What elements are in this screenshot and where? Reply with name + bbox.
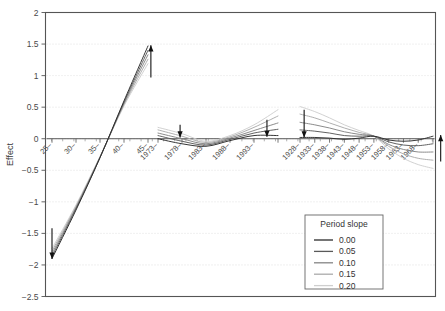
y-tick-label-0: 2 <box>34 8 39 18</box>
y-tick-label-8: −2 <box>29 260 39 270</box>
legend-title: Period slope <box>320 219 368 229</box>
x-ticks <box>52 139 434 143</box>
curve-period-slope-0.20 <box>158 110 278 142</box>
y-tick-label-2: 1 <box>34 71 39 81</box>
legend-label-0.15: 0.15 <box>339 269 356 279</box>
x-tick-labels: 25–30–35–40–45–1973–1978–1983–1988–1993–… <box>38 140 420 162</box>
y-tick-label-7: −1.5 <box>22 228 39 238</box>
y-tick-label-6: −1 <box>29 197 39 207</box>
y-tick-label-9: −2.5 <box>22 292 39 302</box>
arrow-head-cohort-1 <box>438 135 443 141</box>
x-tick-label-period-4: 1993– <box>234 140 256 162</box>
effect-chart: 25–30–35–40–45–1973–1978–1983–1988–1993–… <box>0 0 445 311</box>
y-tick-label-3: 0.5 <box>27 102 39 112</box>
arrow-head-cohort-0 <box>302 131 307 137</box>
y-axis-title: Effect <box>5 143 15 166</box>
legend-label-0.05: 0.05 <box>339 246 356 256</box>
arrow-head-period-1 <box>264 131 269 137</box>
legend-label-0.20: 0.20 <box>339 281 356 291</box>
y-tick-label-4: 0 <box>34 134 39 144</box>
arrow-head-age-1 <box>148 45 153 51</box>
y-tick-label-1: 1.5 <box>27 39 39 49</box>
legend: Period slope0.000.050.100.150.20 <box>305 215 383 291</box>
y-tick-label-5: −0.5 <box>22 165 39 175</box>
chart-container: 25–30–35–40–45–1973–1978–1983–1988–1993–… <box>0 0 445 311</box>
legend-label-0.10: 0.10 <box>339 258 356 268</box>
legend-label-0.00: 0.00 <box>339 235 356 245</box>
